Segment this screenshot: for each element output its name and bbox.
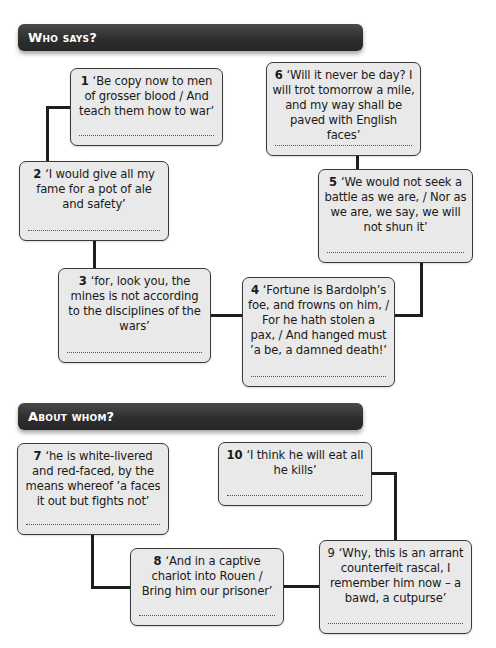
answer-line[interactable] [79,135,214,136]
quote-number: 2 [33,167,41,181]
quote-box-8: 8‘And in a captive chariot into Rouen / … [130,548,284,626]
quote-text: ‘Fortune is Bardolph’s foe, and frowns o… [248,283,389,357]
connector-1-2 [46,106,49,163]
quote-box-6: 6‘Will it never be day? I will trot tomo… [266,62,421,156]
connector-2-3 [93,239,96,270]
section-header-about-whom: About whom? [18,403,363,430]
connector-10-9 [370,472,397,475]
quote-text: ‘We would not seek a battle as we are, /… [325,175,467,234]
answer-line[interactable] [139,615,275,616]
connector-7-8 [91,586,132,589]
connector-7-8 [91,533,94,589]
quote-box-7: 7‘he is white-livered and red-faced, by … [17,443,169,535]
quote-box-4: 4‘Fortune is Bardolph’s foe, and frowns … [242,277,395,387]
answer-line[interactable] [67,352,202,353]
section-title: Who says? [28,30,97,45]
quote-number: 6 [275,68,283,82]
answer-line[interactable] [275,145,412,146]
connector-5-4 [420,261,423,317]
quote-box-5: 5‘We would not seek a battle as we are, … [318,169,473,263]
section-title: About whom? [28,409,114,424]
connector-10-9 [394,472,397,542]
quote-box-10: 10‘I think he will eat all he kills’ [218,442,372,506]
answer-line[interactable] [328,623,463,624]
quote-number: 7 [33,449,41,463]
answer-line[interactable] [26,524,160,525]
connector-6-5 [356,154,359,170]
answer-line[interactable] [251,376,386,377]
quote-number: 4 [251,283,259,297]
quote-number: 9 [328,546,335,560]
quote-box-3: 3‘for, look you, the mines is not accord… [58,268,211,363]
quote-number: 5 [329,175,337,189]
quote-box-2: 2‘I would give all my fame for a pot of … [19,161,169,241]
quote-text: ‘for, look you, the mines is not accordi… [68,274,200,333]
quote-number: 1 [81,74,89,88]
quote-text: ‘he is white-livered and red-faced, by t… [26,449,161,508]
quote-text: ‘Why, this is an arrant counterfeit rasc… [330,546,463,605]
section-header-who-says: Who says? [18,24,363,51]
answer-line[interactable] [227,495,363,496]
answer-line[interactable] [28,230,160,231]
quote-number: 3 [79,274,87,288]
answer-line[interactable] [327,252,464,253]
quote-number: 8 [153,554,161,568]
connector-1-2 [46,106,72,109]
quote-text: ‘And in a captive chariot into Rouen / B… [142,554,273,598]
quote-text: ‘I think he will eat all he kills’ [246,448,363,477]
quote-text: ‘Will it never be day? I will trot tomor… [272,68,414,142]
connector-8-9 [282,585,321,588]
quote-box-1: 1‘Be copy now to men of grosser blood / … [70,68,223,146]
connector-3-4 [209,314,244,317]
quote-text: ‘I would give all my fame for a pot of a… [36,167,155,211]
quote-box-9: 9‘Why, this is an arrant counterfeit ras… [319,540,472,634]
connector-5-4 [393,314,423,317]
quote-text: ‘Be copy now to men of grosser blood / A… [79,74,214,118]
quote-number: 10 [227,448,243,462]
